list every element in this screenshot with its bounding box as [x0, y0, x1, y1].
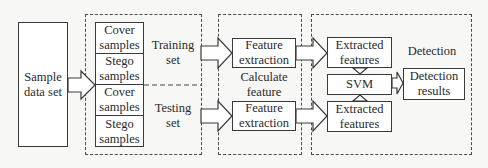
feature-extraction-bottom-box: Feature extraction [232, 101, 296, 131]
extracted-features-top-box: Extracted features [327, 37, 392, 68]
arrow-icon [68, 71, 95, 99]
sample-data-set-label: Sample data set [19, 70, 67, 100]
dataset-stack: Cover samples Stego samples Cover sample… [95, 22, 144, 147]
detection-results-box: Detection results [403, 68, 465, 100]
arrow-icon [296, 38, 327, 68]
testing-set-label: Testing set [148, 101, 198, 131]
training-stego-samples: Stego samples [96, 54, 143, 85]
training-set-label: Training set [148, 38, 198, 68]
arrow-icon [392, 72, 403, 94]
arrow-icon [296, 101, 327, 131]
sample-data-set-box: Sample data set [18, 22, 68, 147]
svm-box: SVM [327, 74, 392, 95]
testing-cover-samples: Cover samples [96, 85, 143, 116]
testing-stego-samples: Stego samples [96, 116, 143, 147]
feature-extraction-top-box: Feature extraction [232, 38, 296, 68]
extracted-features-bottom-box: Extracted features [327, 101, 392, 132]
training-cover-samples: Cover samples [96, 23, 143, 54]
arrow-icon [201, 101, 232, 131]
detection-label: Detection [402, 44, 462, 59]
arrow-icon [201, 38, 232, 68]
calculate-feature-label: Calculate feature [232, 70, 296, 100]
